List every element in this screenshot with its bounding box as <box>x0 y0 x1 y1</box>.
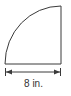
quarter-circle-shape <box>5 6 61 64</box>
left-arrow-icon <box>6 70 12 75</box>
dimension-label: 8 in. <box>0 78 67 90</box>
right-arrow-icon <box>54 70 60 75</box>
dimension-line <box>6 68 61 76</box>
